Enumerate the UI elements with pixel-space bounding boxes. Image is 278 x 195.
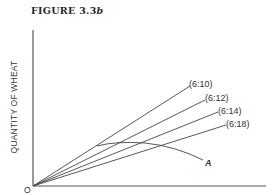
ray-label-6-18: (6:18): [226, 119, 250, 129]
ray-6-14: [33, 112, 218, 186]
origin-label: O: [24, 185, 31, 195]
chart-canvas: [0, 0, 278, 195]
curve-a: [97, 142, 203, 160]
ray-label-6-14: (6:14): [218, 106, 242, 116]
y-axis-label: QUANTITY OF WHEAT: [9, 61, 19, 154]
ray-6-18: [33, 125, 226, 186]
ray-label-6-10: (6:10): [189, 79, 213, 89]
ray-6-10: [33, 86, 190, 186]
ray-label-6-12: (6:12): [205, 93, 229, 103]
curve-label-a: A: [205, 158, 212, 168]
